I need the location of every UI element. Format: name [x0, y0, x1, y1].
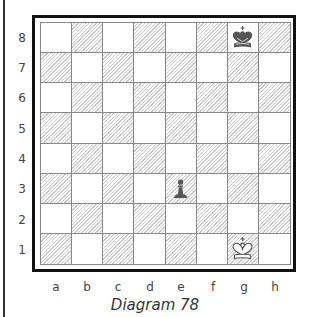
square-c8	[103, 23, 134, 53]
file-label-h: h	[267, 280, 283, 294]
file-label-g: g	[236, 280, 252, 294]
square-h7	[259, 53, 290, 83]
square-g3	[228, 174, 259, 204]
square-b1	[72, 234, 103, 264]
file-label-c: c	[110, 280, 126, 294]
square-h3	[259, 174, 290, 204]
square-b6	[72, 83, 103, 113]
square-b4	[72, 144, 103, 174]
square-g1	[228, 234, 259, 264]
square-g6	[228, 83, 259, 113]
square-c4	[103, 144, 134, 174]
square-f1	[197, 234, 228, 264]
black-king-icon	[228, 23, 258, 52]
square-c6	[103, 83, 134, 113]
square-d5	[134, 113, 165, 143]
rank-label-5: 5	[16, 122, 28, 136]
square-a5	[41, 113, 72, 143]
black-pawn-icon	[166, 174, 196, 203]
square-d2	[134, 204, 165, 234]
square-a1	[41, 234, 72, 264]
square-d8	[134, 23, 165, 53]
square-e2	[166, 204, 197, 234]
square-h6	[259, 83, 290, 113]
square-e3	[166, 174, 197, 204]
square-b7	[72, 53, 103, 83]
square-f5	[197, 113, 228, 143]
file-label-a: a	[48, 280, 64, 294]
square-d6	[134, 83, 165, 113]
square-e7	[166, 53, 197, 83]
square-h8	[259, 23, 290, 53]
rank-label-8: 8	[16, 31, 28, 45]
rank-label-2: 2	[16, 213, 28, 227]
square-f3	[197, 174, 228, 204]
square-c3	[103, 174, 134, 204]
square-h2	[259, 204, 290, 234]
square-d3	[134, 174, 165, 204]
square-f4	[197, 144, 228, 174]
square-g7	[228, 53, 259, 83]
rank-label-6: 6	[16, 91, 28, 105]
rank-label-4: 4	[16, 152, 28, 166]
square-e5	[166, 113, 197, 143]
square-e1	[166, 234, 197, 264]
square-b3	[72, 174, 103, 204]
white-king-icon	[228, 234, 258, 264]
square-h4	[259, 144, 290, 174]
rank-label-7: 7	[16, 61, 28, 75]
square-g2	[228, 204, 259, 234]
square-a2	[41, 204, 72, 234]
square-c1	[103, 234, 134, 264]
square-g8	[228, 23, 259, 53]
square-a8	[41, 23, 72, 53]
square-e4	[166, 144, 197, 174]
square-b8	[72, 23, 103, 53]
square-h5	[259, 113, 290, 143]
square-a4	[41, 144, 72, 174]
square-b2	[72, 204, 103, 234]
square-a3	[41, 174, 72, 204]
square-d7	[134, 53, 165, 83]
square-f2	[197, 204, 228, 234]
square-c5	[103, 113, 134, 143]
rank-label-1: 1	[16, 243, 28, 257]
square-f7	[197, 53, 228, 83]
chess-board	[40, 22, 291, 265]
square-e8	[166, 23, 197, 53]
rank-label-3: 3	[16, 182, 28, 196]
square-a7	[41, 53, 72, 83]
square-d1	[134, 234, 165, 264]
file-label-e: e	[173, 280, 189, 294]
square-a6	[41, 83, 72, 113]
square-h1	[259, 234, 290, 264]
square-g4	[228, 144, 259, 174]
file-label-b: b	[79, 280, 95, 294]
square-e6	[166, 83, 197, 113]
square-f8	[197, 23, 228, 53]
page-margin-rule	[3, 0, 5, 317]
square-c7	[103, 53, 134, 83]
file-label-f: f	[205, 280, 221, 294]
file-label-d: d	[142, 280, 158, 294]
square-g5	[228, 113, 259, 143]
square-f6	[197, 83, 228, 113]
square-c2	[103, 204, 134, 234]
square-d4	[134, 144, 165, 174]
diagram-caption: Diagram 78	[0, 296, 310, 314]
square-b5	[72, 113, 103, 143]
